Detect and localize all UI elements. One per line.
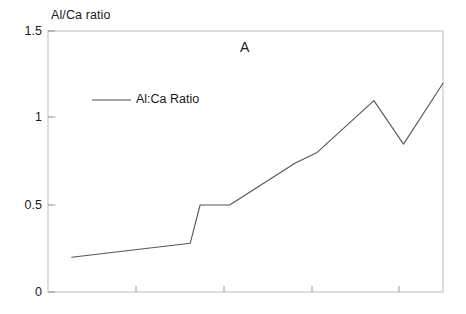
chart-title: A: [240, 39, 249, 55]
y-tick-label-1: 1: [35, 110, 42, 124]
x-axis-ticks: [136, 286, 399, 292]
y-axis-title: Al/Ca ratio: [51, 8, 110, 22]
y-axis-ticks: [48, 31, 55, 292]
legend-entry-label: Al:Ca Ratio: [136, 92, 199, 106]
data-series-alca-ratio: [72, 83, 443, 257]
y-tick-label-0-5: 0.5: [25, 198, 42, 212]
y-tick-label-1-5: 1.5: [25, 24, 42, 38]
chart-figure: Al/Ca ratio A 1.5 1 0.5 0 Al:Ca Ratio: [0, 0, 466, 314]
y-tick-label-0: 0: [35, 285, 42, 299]
line-chart-plot: [0, 0, 466, 314]
